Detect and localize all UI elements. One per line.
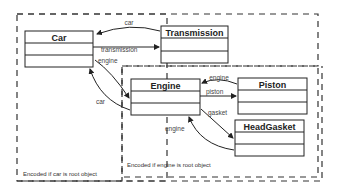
- class-engine: Engine: [131, 79, 200, 115]
- edge-label-car-1: car: [124, 19, 134, 26]
- object-graph-diagram: Car Transmission Engine Piston HeadGaske…: [0, 0, 337, 189]
- edge-label-car-2: car: [96, 98, 106, 105]
- class-headgasket: HeadGasket: [235, 120, 304, 156]
- class-car-name: Car: [51, 33, 67, 43]
- edge-headgasket-to-engine: [189, 117, 234, 150]
- class-piston: Piston: [238, 78, 307, 114]
- class-piston-name: Piston: [259, 80, 287, 90]
- edge-transmission-to-car: [97, 27, 160, 34]
- class-transmission: Transmission: [161, 26, 228, 63]
- edge-label-gasket: gasket: [208, 109, 227, 117]
- class-engine-name: Engine: [150, 81, 180, 91]
- edge-label-engine-1: engine: [98, 57, 118, 65]
- edge-label-engine-2: engine: [209, 74, 229, 82]
- edge-label-transmission: transmission: [101, 46, 138, 53]
- class-headgasket-name: HeadGasket: [243, 122, 295, 132]
- car-root-caption: Encoded if car is root object: [23, 171, 97, 177]
- engine-root-caption: Encoded if engine is root object: [127, 162, 211, 168]
- edge-label-piston: piston: [206, 88, 224, 96]
- class-transmission-name: Transmission: [165, 28, 223, 38]
- class-car: Car: [25, 31, 93, 67]
- edge-label-engine-3: engine: [165, 125, 185, 133]
